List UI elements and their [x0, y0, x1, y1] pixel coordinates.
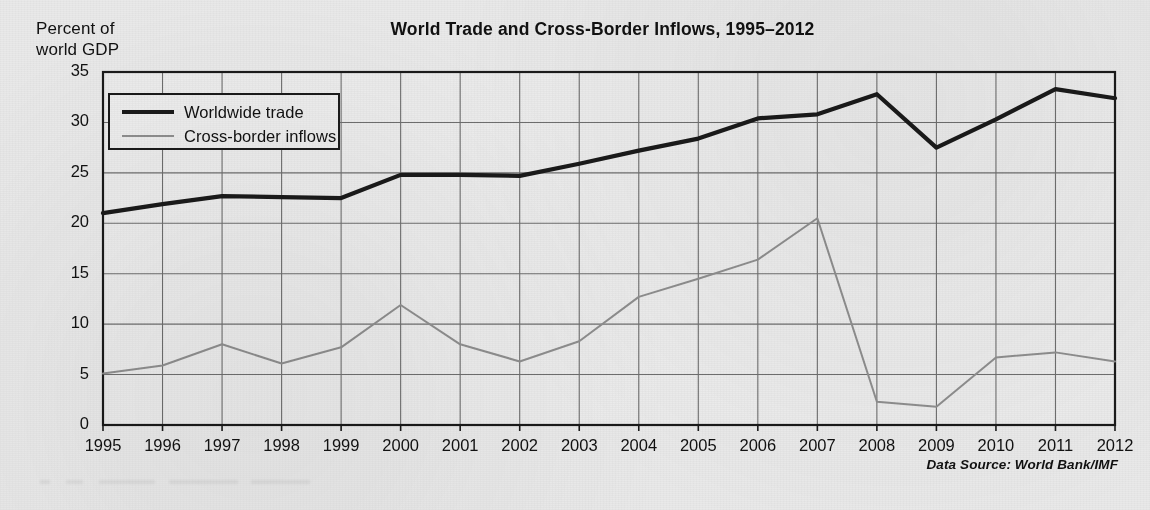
legend-label-worldwide-trade: Worldwide trade	[184, 103, 304, 122]
y-tick-label-35: 35	[55, 61, 89, 80]
y-tick-label-25: 25	[55, 162, 89, 181]
legend-swatch-thick-black-line	[120, 105, 176, 119]
y-tick-label-0: 0	[55, 414, 89, 433]
y-tick-label-5: 5	[55, 364, 89, 383]
chart-legend[interactable]: Worldwide trade Cross-border inflows	[108, 93, 340, 150]
y-tick-label-30: 30	[55, 111, 89, 130]
y-axis-caption-line-2: world GDP	[36, 39, 119, 60]
legend-label-cross-border-inflows: Cross-border inflows	[184, 127, 336, 146]
source-note: Data Source: World Bank/IMF	[927, 457, 1118, 472]
line-chart-svg	[0, 0, 1150, 510]
legend-item-cross-border-inflows[interactable]: Cross-border inflows	[120, 124, 338, 148]
plot-area	[0, 0, 1150, 510]
x-tick-label-2012: 2012	[1080, 436, 1150, 455]
y-tick-label-15: 15	[55, 263, 89, 282]
y-tick-label-10: 10	[55, 313, 89, 332]
legend-item-worldwide-trade[interactable]: Worldwide trade	[120, 100, 338, 124]
legend-swatch-thin-gray-line	[120, 129, 176, 143]
page-title: World Trade and Cross-Border Inflows, 19…	[0, 19, 1150, 40]
y-tick-label-20: 20	[55, 212, 89, 231]
